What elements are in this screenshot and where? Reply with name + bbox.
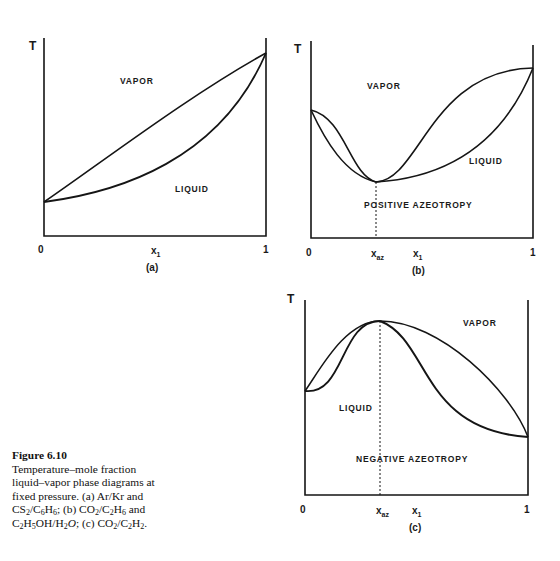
panel-b-vapor-label: VAPOR xyxy=(367,82,401,91)
panel-a-x-sub: 1 xyxy=(157,251,161,258)
panel-a-vapor-curve xyxy=(44,53,266,202)
figure-caption: Figure 6.10 Temperature–mole fraction li… xyxy=(12,449,212,531)
panel-a-tick-0: 0 xyxy=(38,245,44,255)
panel-b-positive-azeotropy-label: POSITIVE AZEOTROPY xyxy=(364,201,473,210)
f-and: and xyxy=(126,503,145,515)
caption-line-2: liquid–vapor phase diagrams at xyxy=(12,476,155,488)
f-o: O xyxy=(68,517,76,529)
panel-c-liquid-curve-right xyxy=(380,321,528,437)
panel-c-y-axis-label: T xyxy=(287,293,294,305)
f-c-part: ; (c) CO xyxy=(76,517,113,529)
panel-b-caption-label: (b) xyxy=(412,266,425,276)
panel-a-tick-1: 1 xyxy=(263,245,269,255)
panel-b-liquid-label: LIQUID xyxy=(469,157,503,166)
caption-line-4: CS2/C6H6; (b) CO2/C2H6 and xyxy=(12,503,145,515)
panel-c-x-az-sub: az xyxy=(382,511,389,518)
panel-b-x-sub: 1 xyxy=(419,254,423,261)
panel-b-tick-0: 0 xyxy=(306,248,312,258)
f-end: . xyxy=(144,517,147,529)
caption-line-5: C2H5OH/H2O; (c) CO2/C2H2. xyxy=(12,517,147,529)
phase-diagram-figure: T VAPOR LIQUID 0 x1 1 (a) T VAPOR LIQUID… xyxy=(0,0,560,561)
panel-c-tick-1: 1 xyxy=(524,505,530,515)
f-h: H xyxy=(24,517,32,529)
f-c: C xyxy=(120,517,128,529)
f-b-part: ; (b) CO xyxy=(57,503,95,515)
panel-a-liquid-label: LIQUID xyxy=(175,185,209,194)
panel-c-liquid-curve-left xyxy=(305,321,380,391)
panel-b-x-az-sub: az xyxy=(377,254,384,261)
f-h: H xyxy=(114,503,122,515)
caption-line-1: Temperature–mole fraction xyxy=(12,463,136,475)
panel-a-caption-label: (a) xyxy=(146,263,158,273)
panel-a-vapor-label: VAPOR xyxy=(120,77,154,86)
f-c: C xyxy=(12,517,20,529)
panel-b-x-az-label: xaz xyxy=(371,249,384,261)
panel-a-axes xyxy=(44,38,266,236)
panel-a-liquid-curve xyxy=(44,53,266,202)
panel-c-negative-azeotropy-label: NEGATIVE AZEOTROPY xyxy=(356,455,468,464)
f-c: C xyxy=(33,503,41,515)
panel-c-liquid-label: LIQUID xyxy=(339,404,373,413)
panel-c-vapor-label: VAPOR xyxy=(463,319,497,328)
panel-b-liquid-curve-left xyxy=(311,110,376,182)
panel-c-tick-0: 0 xyxy=(300,505,306,515)
f-h: H xyxy=(45,503,53,515)
figure-number: Figure 6.10 xyxy=(12,449,212,463)
panel-c-x-axis-label: x1 xyxy=(412,506,421,518)
panel-b-vapor-curve-left xyxy=(311,110,376,182)
panel-b-tick-1: 1 xyxy=(530,248,536,258)
panel-c-x-az-label: xaz xyxy=(376,506,389,518)
caption-line-3: fixed pressure. (a) Ar/Kr and xyxy=(12,490,143,502)
panel-a-x-axis-label: x1 xyxy=(151,246,160,258)
panel-c-x-sub: 1 xyxy=(418,511,422,518)
f-c: C xyxy=(102,503,110,515)
f-oh: OH/H xyxy=(36,517,64,529)
panel-c-caption-label: (c) xyxy=(409,523,421,533)
panel-b-x-axis-label: x1 xyxy=(413,249,422,261)
f-cs: CS xyxy=(12,503,26,515)
panel-a-y-axis-label: T xyxy=(29,40,36,52)
panel-b-y-axis-label: T xyxy=(294,43,301,55)
